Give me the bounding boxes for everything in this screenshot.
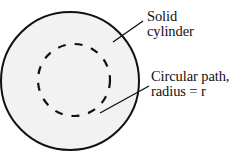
solid-cylinder-circle xyxy=(1,12,139,150)
label-circular-path-line1: Circular path, xyxy=(151,69,229,84)
label-solid-cylinder-line1: Solid xyxy=(147,9,194,24)
label-solid-cylinder-line2: cylinder xyxy=(147,24,194,39)
label-solid-cylinder: Solid cylinder xyxy=(147,9,194,39)
diagram-canvas: Solid cylinder Circular path, radius = r xyxy=(0,0,245,162)
label-circular-path: Circular path, radius = r xyxy=(151,69,229,99)
label-circular-path-line2: radius = r xyxy=(151,84,229,99)
